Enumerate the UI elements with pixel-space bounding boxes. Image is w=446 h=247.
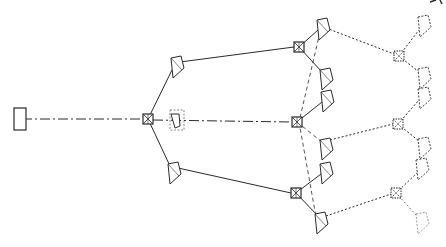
level3-bottom-hub-icon: [391, 188, 401, 198]
top-right-fragment: [430, 0, 442, 4]
edge-l2f-h3bottom: [326, 194, 391, 216]
level3-leaf-b-icon: [418, 67, 431, 89]
edge-l2a-h3top: [326, 28, 394, 54]
level1-bottom-node-icon: [168, 162, 181, 184]
level2-leaf-b-icon: [320, 68, 333, 90]
edges: [22, 28, 420, 228]
level2-leaf-c-icon: [321, 90, 334, 112]
edge-vertical-link-2: [299, 122, 318, 228]
edge-l1bottom-h2bottom: [178, 168, 291, 193]
network-tree-diagram: [0, 0, 446, 247]
level2-leaf-a-icon: [317, 18, 330, 40]
hub-node-icon: [143, 114, 153, 124]
edge-hub-l1bottom: [148, 119, 170, 166]
level2-leaf-f-icon: [315, 212, 328, 234]
level2-mid-hub-icon: [292, 117, 302, 127]
level2-leaf-e-icon: [320, 162, 333, 184]
edge-l2d-h3mid: [330, 124, 393, 140]
level1-top-node-icon: [171, 56, 184, 78]
root-node-rectangle: [14, 108, 26, 130]
level2-leaf-d-icon: [320, 138, 333, 160]
level3-leaf-f-icon: [416, 212, 429, 234]
level2-top-hub-icon: [294, 42, 304, 52]
level2-bottom-hub-icon: [291, 188, 301, 198]
level3-leaf-d-icon: [418, 137, 431, 159]
level3-top-hub-icon: [394, 51, 404, 61]
level3-leaf-e-icon: [416, 158, 429, 180]
edge-hub-l1top: [148, 70, 172, 119]
edge-l1top-h2top: [180, 47, 294, 62]
level3-leaf-a-icon: [418, 15, 431, 37]
level3-leaf-c-icon: [418, 87, 431, 109]
level3-mid-hub-icon: [393, 119, 403, 129]
